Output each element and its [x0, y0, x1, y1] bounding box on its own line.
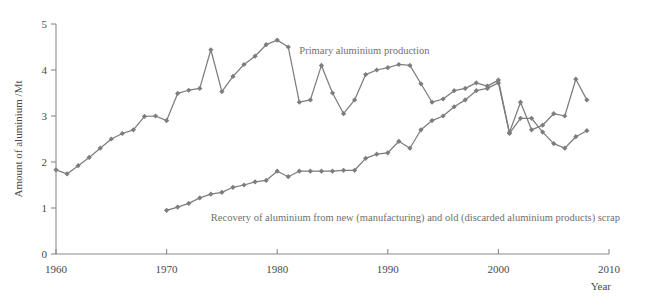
y-tick-label: 2: [42, 156, 48, 168]
x-tick-label: 2000: [487, 263, 510, 275]
data-point-marker: [120, 131, 125, 136]
data-point-marker: [573, 77, 578, 82]
data-point-marker: [363, 72, 368, 77]
data-point-marker: [230, 185, 235, 190]
series-annotation-1: Recovery of aluminium from new (manufact…: [211, 212, 620, 224]
data-point-marker: [208, 192, 213, 197]
y-tick-label: 0: [42, 248, 48, 260]
data-point-marker: [529, 127, 534, 132]
data-point-marker: [385, 65, 390, 70]
data-point-marker: [308, 169, 313, 174]
series-line-1: [167, 83, 587, 210]
data-point-marker: [208, 47, 213, 52]
data-point-marker: [330, 90, 335, 95]
data-point-marker: [186, 201, 191, 206]
data-point-marker: [562, 113, 567, 118]
x-tick-label: 2010: [598, 263, 621, 275]
data-point-marker: [197, 195, 202, 200]
data-point-marker: [396, 62, 401, 67]
data-point-marker: [341, 168, 346, 173]
data-point-marker: [374, 152, 379, 157]
data-point-marker: [374, 67, 379, 72]
data-point-marker: [319, 169, 324, 174]
data-point-marker: [518, 100, 523, 105]
series-annotation-0: Primary aluminium production: [299, 45, 430, 56]
data-point-marker: [286, 174, 291, 179]
y-tick-label: 3: [42, 110, 48, 122]
data-point-marker: [153, 113, 158, 118]
data-point-marker: [474, 80, 479, 85]
data-point-marker: [197, 86, 202, 91]
y-tick-label: 1: [42, 202, 48, 214]
data-point-marker: [297, 169, 302, 174]
data-point-marker: [297, 100, 302, 105]
x-tick-label: 1980: [266, 263, 289, 275]
x-tick-label: 1990: [377, 263, 400, 275]
data-point-marker: [186, 88, 191, 93]
y-tick-label: 5: [42, 18, 48, 30]
data-point-marker: [308, 97, 313, 102]
x-tick-label: 1970: [156, 263, 179, 275]
data-point-marker: [53, 167, 58, 172]
x-axis-title: Year: [591, 280, 612, 292]
data-point-marker: [330, 169, 335, 174]
data-point-marker: [584, 128, 589, 133]
data-point-marker: [252, 179, 257, 184]
series-line-0: [56, 40, 587, 174]
chart-canvas: 012345196019701980199020002010Amount of …: [0, 0, 666, 301]
data-point-marker: [219, 190, 224, 195]
data-point-marker: [241, 182, 246, 187]
aluminium-production-chart: 012345196019701980199020002010Amount of …: [0, 0, 666, 301]
data-point-marker: [584, 97, 589, 102]
data-point-marker: [319, 63, 324, 68]
y-tick-label: 4: [42, 64, 48, 76]
data-point-marker: [175, 204, 180, 209]
data-point-marker: [463, 86, 468, 91]
x-tick-label: 1960: [45, 263, 68, 275]
y-axis-title: Amount of aluminium /Mt: [12, 80, 24, 197]
data-point-marker: [164, 118, 169, 123]
data-point-marker: [175, 91, 180, 96]
data-point-marker: [164, 208, 169, 213]
